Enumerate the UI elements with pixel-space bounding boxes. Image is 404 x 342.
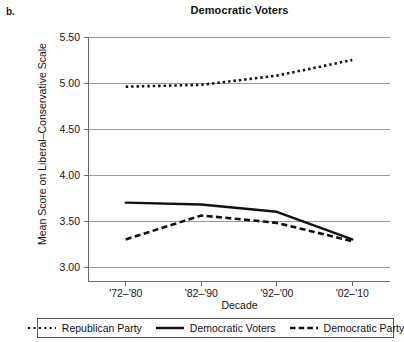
gridlines (88, 37, 390, 267)
x-tick-label: '92–'00 (260, 287, 293, 299)
legend-label: Republican Party (62, 322, 142, 334)
y-tick-label: 5.50 (60, 31, 81, 43)
legend-item-republican-party[interactable]: Republican Party (27, 322, 142, 334)
y-tick-label: 4.00 (60, 169, 81, 181)
legend-item-democratic-party[interactable]: Democratic Party (289, 322, 404, 334)
legend: Republican Party Democratic Voters Democ… (37, 318, 394, 338)
x-tick-label: '82–'90 (185, 287, 218, 299)
x-axis-ticks: '72–'80'82–'90'92–'00'02–'10 (109, 281, 369, 299)
y-tick-label: 4.50 (60, 123, 81, 135)
dashed-line-swatch (289, 323, 319, 333)
axis-lines (88, 37, 390, 281)
x-tick-label: '02–'10 (336, 287, 369, 299)
x-tick-label: '72–'80 (109, 287, 142, 299)
y-tick-label: 3.00 (60, 261, 81, 273)
legend-label: Democratic Party (324, 322, 404, 334)
y-tick-label: 5.00 (60, 77, 81, 89)
y-tick-label: 3.50 (60, 215, 81, 227)
x-axis-title: Decade (88, 299, 391, 311)
y-axis-ticks: 3.003.504.004.505.005.50 (60, 31, 88, 273)
solid-line-swatch (155, 323, 185, 333)
data-series (126, 60, 353, 241)
series-line-democratic-party (126, 215, 353, 241)
legend-item-democratic-voters[interactable]: Democratic Voters (155, 322, 276, 334)
legend-label: Democratic Voters (190, 322, 276, 334)
dotted-line-swatch (27, 323, 57, 333)
